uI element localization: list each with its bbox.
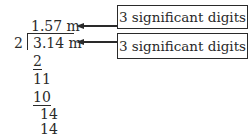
annotation-box-quotient: 3 significant digits [117, 5, 248, 29]
annotation-box-dividend: 3 significant digits [117, 33, 248, 59]
annotation-label: 3 significant digits [119, 9, 246, 25]
step-4: 14 [40, 107, 58, 121]
step-5: 14 [40, 122, 58, 135]
step-3: 10 [33, 90, 51, 106]
arrow-line [82, 41, 118, 43]
quotient: 1.57 m [31, 19, 80, 33]
divisor: 2 [14, 36, 23, 50]
arrow-line [82, 25, 118, 27]
annotation-label: 3 significant digits [119, 38, 246, 54]
step-2: 11 [33, 72, 51, 86]
dividend: 3.14 m [33, 36, 82, 50]
step-1: 2 [33, 54, 42, 70]
